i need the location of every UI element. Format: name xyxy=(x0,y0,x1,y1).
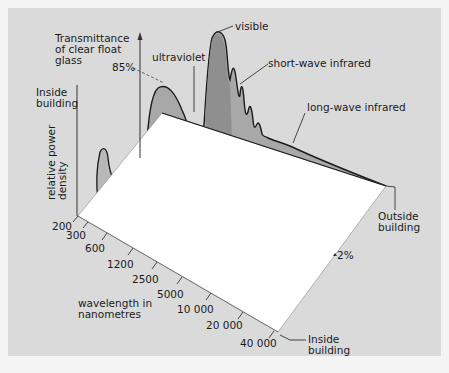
visible-label: visible xyxy=(235,21,269,32)
peak-leader xyxy=(133,68,164,83)
swir-leader xyxy=(240,64,268,84)
tick-label: 10 000 xyxy=(177,303,214,315)
outside-building-label: Outside building xyxy=(378,211,428,233)
tick-label: 2500 xyxy=(132,273,159,285)
short-wave-label: short-wave infrared xyxy=(268,58,371,69)
tick-label: 300 xyxy=(66,229,86,241)
long-wave-label: long-wave infrared xyxy=(307,102,406,113)
visible-band-shading xyxy=(205,34,232,140)
inside-bottom-leader xyxy=(280,335,306,340)
inside-building-bottom-label: Inside building xyxy=(308,334,358,356)
peak-percent-label: 85% xyxy=(112,62,135,73)
tick-label: 1200 xyxy=(107,258,134,270)
ultraviolet-label: ultraviolet xyxy=(152,52,206,63)
outside-leader xyxy=(386,186,395,210)
wavelength-axis-label: wavelength in nanometres xyxy=(78,298,158,320)
tick-label: 600 xyxy=(85,242,105,254)
tick-label: 20 000 xyxy=(206,319,243,331)
visible-leader xyxy=(215,26,233,33)
tick-label: 40 000 xyxy=(240,337,277,349)
tick-label: 5000 xyxy=(157,288,184,300)
lwir-leader xyxy=(293,113,305,143)
low-percent-label: 2% xyxy=(337,250,354,261)
power-axis-label: relative power density xyxy=(46,110,68,200)
arrow-up-icon xyxy=(138,32,143,40)
inside-building-top-label: Inside building xyxy=(36,87,76,109)
